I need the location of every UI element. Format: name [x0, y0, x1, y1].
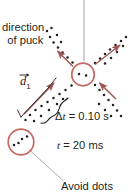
direction-of-puck-label: direction of puck: [2, 21, 44, 46]
delta-t-value: = 0.10 s: [66, 110, 109, 122]
leader-avoid-dots: [29, 150, 64, 182]
arrow-up-left: [58, 51, 74, 67]
physics-motion-diagram-figure: direction of puck d 1 Δt = 0.10 s t = 20…: [0, 0, 132, 196]
vector-arrow-overbar-icon: [19, 72, 30, 78]
time-interval-label: t = 20 ms: [57, 139, 103, 152]
d1-symbol-wrapper: d: [20, 74, 26, 89]
arrow-up-right: [95, 45, 120, 65]
delta-t-label: Δt = 0.10 s: [55, 110, 109, 123]
arrow-down-right-inward: [100, 83, 117, 99]
strobe-dots-track-upper-left: [46, 27, 74, 64]
puck-circle-lower: [8, 129, 34, 155]
strobe-dots-track-upper-right: [94, 36, 128, 65]
avoid-dots-label: Avoid dots: [61, 180, 113, 193]
direction-label-line2: of puck: [2, 34, 44, 47]
direction-label-line1: direction: [2, 21, 44, 33]
time-value: = 20 ms: [60, 139, 103, 151]
displacement-vector-label: d 1: [20, 74, 31, 91]
d1-subscript: 1: [26, 82, 30, 91]
puck-circle-upper: [72, 63, 95, 86]
